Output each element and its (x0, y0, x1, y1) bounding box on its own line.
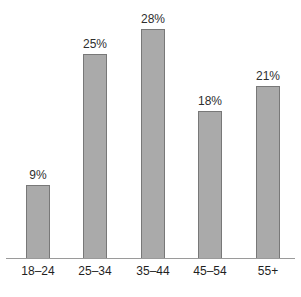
category-label-55-plus: 55+ (233, 262, 301, 280)
bar-group: 25% (83, 0, 107, 259)
bar-group: 9% (26, 0, 50, 259)
bar-value-label: 28% (141, 13, 165, 25)
bar-chart: 9% 25% 28% 18% 21% 18–24 25–34 35–44 45–… (0, 0, 301, 297)
bar-group: 28% (141, 0, 165, 259)
plot-area: 9% 25% 28% 18% 21% (0, 0, 301, 259)
bar-group: 18% (198, 0, 222, 259)
bar[interactable] (141, 29, 165, 259)
x-axis-line (6, 258, 295, 259)
bar-group: 21% (256, 0, 280, 259)
bar-value-label: 18% (198, 95, 222, 107)
bar[interactable] (83, 54, 107, 259)
bar[interactable] (256, 86, 280, 259)
bar[interactable] (26, 185, 50, 259)
bar[interactable] (198, 111, 222, 259)
bar-value-label: 21% (256, 70, 280, 82)
bar-value-label: 25% (83, 38, 107, 50)
bar-value-label: 9% (29, 169, 46, 181)
category-axis: 18–24 25–34 35–44 45–54 55+ (0, 262, 301, 284)
